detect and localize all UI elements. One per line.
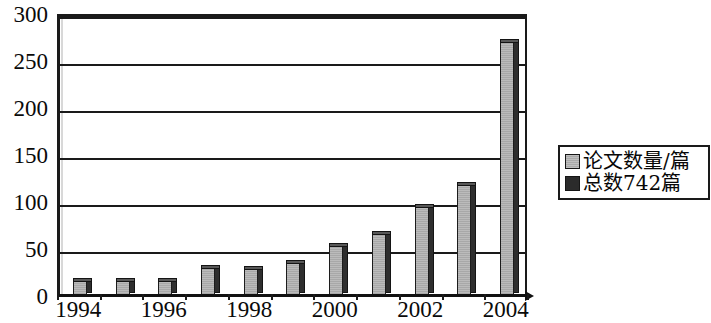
x-axis-labels: 199419961998200020022004 <box>57 297 527 323</box>
bar <box>329 246 348 296</box>
bar-cap <box>329 243 348 247</box>
legend-item: 总数742篇 <box>565 172 704 194</box>
y-axis-tick-label: 250 <box>14 50 49 73</box>
bar <box>415 207 434 296</box>
bar-chart: 050100150200250300 199419961998200020022… <box>0 0 711 323</box>
y-axis-tick-label: 200 <box>14 97 49 120</box>
bar-cap <box>116 278 135 282</box>
y-axis-tick-label: 150 <box>14 144 49 167</box>
x-axis-tick-label: 2002 <box>397 297 443 323</box>
x-axis-tick-label: 1998 <box>226 297 272 323</box>
legend-label: 论文数量/篇 <box>583 151 690 172</box>
y-axis-tick-label: 100 <box>14 191 49 214</box>
bar <box>201 268 220 296</box>
x-axis-tick-label: 1996 <box>141 297 187 323</box>
bar <box>500 42 519 296</box>
bar-cap <box>73 278 92 282</box>
bar-face <box>415 207 429 296</box>
bar-face <box>244 269 258 296</box>
bar-cap <box>457 182 476 186</box>
bar-cap <box>201 265 220 269</box>
bar-cap <box>244 266 263 270</box>
bar-face <box>372 234 386 296</box>
bar-face <box>201 268 215 296</box>
legend-item: 论文数量/篇 <box>565 150 704 172</box>
bar <box>286 263 305 296</box>
legend-swatch-icon <box>565 176 580 191</box>
legend: 论文数量/篇总数742篇 <box>558 145 710 200</box>
x-axis-tick-label: 1994 <box>55 297 101 323</box>
bar-face <box>329 246 343 296</box>
x-axis-tick-label: 2004 <box>483 297 529 323</box>
bar-cap <box>500 39 519 43</box>
bar-cap <box>415 204 434 208</box>
y-axis-tick-label: 300 <box>14 3 49 26</box>
bar <box>457 185 476 296</box>
bar-face <box>457 185 471 296</box>
legend-swatch-icon <box>565 154 580 169</box>
bar-face <box>500 42 514 296</box>
bar-face <box>286 263 300 296</box>
plot-inner <box>60 17 525 296</box>
x-axis-tick-label: 2000 <box>312 297 358 323</box>
plot-area <box>57 14 527 296</box>
bar-cap <box>286 260 305 264</box>
bar-cap <box>158 278 177 282</box>
y-axis-tick-label: 50 <box>25 238 48 261</box>
legend-label: 总数742篇 <box>583 173 681 194</box>
bar <box>372 234 391 296</box>
bar <box>244 269 263 296</box>
bar-series-group <box>60 17 525 296</box>
y-axis: 050100150200250300 <box>0 0 52 323</box>
bar-cap <box>372 231 391 235</box>
y-axis-tick-label: 0 <box>37 285 49 308</box>
